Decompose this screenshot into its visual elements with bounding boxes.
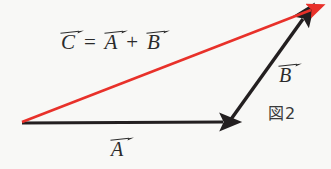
vector-addition-figure: C = A + B A xyxy=(0,0,331,169)
figure-caption: 図2 xyxy=(268,100,296,124)
vector-a-label-symbol: A xyxy=(111,137,124,159)
equation-term-2: B xyxy=(147,32,160,53)
vector-a-line xyxy=(22,122,223,123)
equation-term-1: A xyxy=(105,32,118,53)
vector-b-label-symbol: B xyxy=(279,63,292,85)
equation-lhs: C xyxy=(61,32,75,53)
vector-a-label: A xyxy=(111,137,124,159)
vector-a-label-text: A xyxy=(111,139,124,159)
vector-b-label: B xyxy=(279,63,292,85)
vector-a-symbol: A xyxy=(105,30,118,53)
equation-label: C = A + B xyxy=(61,30,160,53)
equation-plus: + xyxy=(123,32,141,53)
vector-b-symbol: B xyxy=(147,30,160,53)
vector-c-symbol: C xyxy=(61,30,75,53)
vector-b-label-text: B xyxy=(279,65,292,85)
equation-equals: = xyxy=(81,32,99,53)
